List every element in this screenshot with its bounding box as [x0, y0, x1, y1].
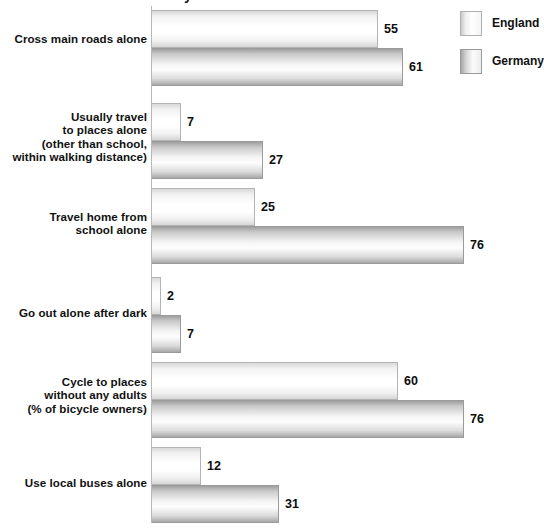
legend-item-germany: Germany — [460, 46, 538, 84]
legend-label-england: England — [492, 11, 539, 36]
category-label: Cycle to places without any adults (% of… — [0, 375, 147, 415]
category-label-line: Cross main roads alone — [14, 32, 147, 45]
bar-england — [152, 10, 378, 48]
category-label: Use local buses alone — [0, 476, 147, 489]
bar-england — [152, 447, 201, 485]
bar-value-germany: 7 — [181, 315, 194, 353]
category-label-line: Use local buses alone — [25, 476, 147, 489]
bar-germany — [152, 226, 464, 264]
bar-value-england: 7 — [181, 103, 194, 141]
category-label: Cross main roads alone — [0, 32, 147, 45]
category-label-line: Cycle to places — [62, 375, 147, 388]
bar-germany — [152, 141, 263, 179]
bar-england — [152, 103, 181, 141]
category-label: Usually travel to places alone (other th… — [0, 110, 147, 164]
category-label-line: within walking distance) — [12, 150, 147, 163]
category-label: Travel home from school alone — [0, 210, 147, 237]
legend-item-england: England — [460, 8, 538, 46]
bar-value-germany: 31 — [279, 485, 299, 523]
legend-swatch-england-icon — [460, 11, 482, 36]
category-label: Go out alone after dark — [0, 306, 147, 319]
category-label-line: (% of bicycle owners) — [27, 402, 147, 415]
bar-germany — [152, 400, 464, 438]
category-label-line: without any adults — [44, 388, 147, 401]
bar-value-england: 12 — [201, 447, 221, 485]
bar-germany — [152, 485, 279, 523]
category-label-line: to places alone — [62, 123, 147, 136]
category-label-line: Usually travel — [71, 110, 147, 123]
category-label-line: (other than school, — [42, 137, 147, 150]
bar-value-england: 55 — [378, 10, 398, 48]
bar-value-england: 2 — [161, 277, 174, 315]
bar-value-germany: 27 — [263, 141, 283, 179]
bar-germany — [152, 315, 181, 353]
bar-england — [152, 188, 255, 226]
legend-swatch-germany-icon — [460, 49, 482, 74]
legend-label-germany: Germany — [492, 49, 544, 74]
category-label-line: school alone — [76, 223, 147, 236]
bar-value-germany: 61 — [403, 48, 423, 86]
category-label-line: Go out alone after dark — [19, 306, 147, 319]
category-label-line: Travel home from — [50, 210, 147, 223]
bar-value-england: 25 — [255, 188, 275, 226]
bar-germany — [152, 48, 403, 86]
bar-value-england: 60 — [398, 362, 418, 400]
bar-england — [152, 277, 161, 315]
bar-value-germany: 76 — [464, 400, 484, 438]
bar-value-germany: 76 — [464, 226, 484, 264]
chart-legend: England Germany — [460, 8, 538, 84]
bar-england — [152, 362, 398, 400]
